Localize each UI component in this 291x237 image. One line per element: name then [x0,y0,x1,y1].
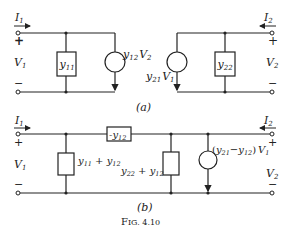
source-label: (y21−y12)V1 [212,144,269,157]
circuit-b-label: (b) [137,201,153,214]
current-source-icon [105,52,125,72]
minus-sign: − [14,77,23,90]
current-source-icon [167,52,187,72]
plus-sign: + [14,136,23,149]
terminal-icon [270,90,274,94]
shunt-admittance-right-label: y22 + y12 [120,165,164,178]
terminal-icon [16,191,20,195]
source-y12v2-label: y12V2 [122,48,152,62]
circuit-a-label: (a) [136,101,151,114]
circuit-a: y11 y12V2 I1 + V1 − y21V1 [14,11,279,114]
junction-dot-icon [206,191,209,194]
plus-sign: + [14,34,24,48]
plus-sign: + [268,34,278,48]
shunt-admittance-right-box [163,152,179,175]
shunt-admittance-left-label: y11 + y12 [77,155,121,168]
current-i2-label: I2 [263,11,273,25]
terminal-icon [16,90,20,94]
plus-sign: + [268,136,277,149]
minus-sign: − [268,77,277,90]
source-y21v1-label: y21V1 [145,70,175,84]
voltage-v2-label: V2 [266,56,279,70]
shunt-admittance-left-box [58,153,74,175]
voltage-v1-label: V1 [14,56,26,70]
two-port-equivalent-circuits: y11 y12V2 I1 + V1 − y21V1 [0,0,291,237]
current-i2-label: I2 [263,114,273,128]
current-i1-label: I1 [14,114,24,128]
minus-sign: − [14,178,23,191]
minus-sign: − [268,178,277,191]
voltage-v1-label: V1 [14,158,26,172]
current-i1-label: I1 [14,11,24,25]
circuit-b: -y12 y11 + y12 y22 + y12 (y21−y12)V1 I1 … [14,114,279,214]
terminal-icon [270,191,274,195]
circuit-a-output-side: y21V1 y22 I2 + V2 − [145,11,279,94]
circuit-a-input-side: y11 y12V2 I1 + V1 − [14,11,152,94]
figure-caption: FIG. 4.10 [121,216,160,227]
